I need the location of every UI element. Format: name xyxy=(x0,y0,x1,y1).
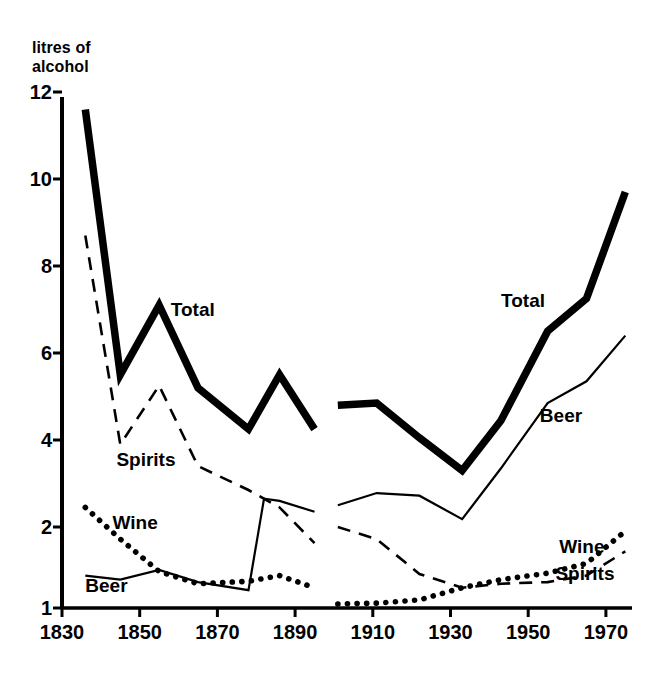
x-tick-label-1890: 1890 xyxy=(255,622,335,642)
y-axis-title-line2: alcohol xyxy=(32,58,89,75)
y-tick-label-10: 10 xyxy=(10,169,52,189)
y-tick-label-4: 4 xyxy=(10,430,52,450)
series-label-wine-right: Wine xyxy=(559,537,604,556)
alcohol-consumption-chart: litres ofalcohol 124681012 1830185018701… xyxy=(0,0,650,680)
chart-axes xyxy=(53,92,632,617)
series-label-wine-left: Wine xyxy=(113,513,158,532)
series-line-total-right xyxy=(338,192,625,470)
y-tick-label-12: 12 xyxy=(10,82,52,102)
y-tick-label-1: 1 xyxy=(10,598,52,618)
series-label-beer-left: Beer xyxy=(85,576,127,595)
x-tick-label-1950: 1950 xyxy=(488,622,568,642)
y-tick-label-6: 6 xyxy=(10,343,52,363)
y-axis-title: litres ofalcohol xyxy=(32,38,91,76)
series-line-total-left xyxy=(85,109,314,429)
x-tick-label-1850: 1850 xyxy=(100,622,180,642)
y-tick-label-8: 8 xyxy=(10,256,52,276)
x-tick-label-1870: 1870 xyxy=(177,622,257,642)
series-label-total-right: Total xyxy=(501,291,545,310)
chart-series-group xyxy=(85,109,625,604)
y-tick-label-2: 2 xyxy=(10,517,52,537)
series-label-spirits-right: Spirits xyxy=(555,564,614,583)
x-tick-label-1830: 1830 xyxy=(22,622,102,642)
series-label-beer-right: Beer xyxy=(540,406,582,425)
series-line-beer-right xyxy=(338,336,625,520)
x-tick-label-1910: 1910 xyxy=(333,622,413,642)
series-label-total-left: Total xyxy=(171,300,215,319)
x-tick-label-1930: 1930 xyxy=(411,622,491,642)
y-axis-title-line1: litres of xyxy=(32,39,91,56)
x-tick-label-1970: 1970 xyxy=(566,622,646,642)
series-label-spirits-left: Spirits xyxy=(116,450,175,469)
